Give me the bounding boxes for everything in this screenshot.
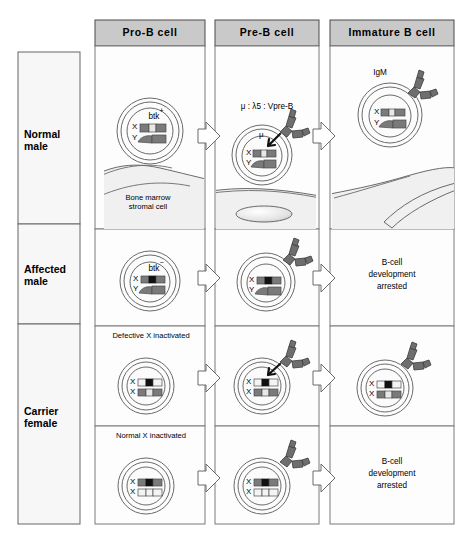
chromosome-label-x-active: X (130, 477, 135, 486)
row-label-column (18, 52, 80, 524)
chromosome-label-x-active: X (369, 389, 374, 398)
defective-x-inactivated-label: Defective X inactivated (99, 331, 203, 340)
chromosome-x-inactive (138, 379, 162, 386)
stromal-nucleus (236, 206, 292, 222)
chromosome-label-x-active: X (246, 477, 251, 486)
arrested-line1: B-cell (334, 456, 450, 468)
row-label-normal-male: Normal male (24, 128, 80, 152)
chromosome-label-x-inactive: X (130, 487, 135, 496)
arrested-line1: B-cell (334, 257, 450, 269)
btk-gene-text: btk (148, 264, 159, 273)
row-label-line2: female (24, 417, 80, 429)
chromosome-x-active (254, 389, 278, 396)
chromosome-label-x: X (246, 148, 251, 157)
chromosome-label-y: Y (133, 284, 138, 293)
chromosome-label-y: Y (249, 285, 254, 294)
row-label-line1: Affected (24, 263, 80, 275)
arrested-message-carrier-female: B-cell development arrested (334, 456, 450, 492)
chromosome-label-x-active: X (246, 387, 251, 396)
cell-pro-b-carrier-defective-x (118, 358, 174, 414)
chromosome-label-y: Y (246, 158, 251, 167)
chromosome-x-inactive (254, 379, 278, 386)
chromosome-x-active (138, 389, 162, 396)
figure-canvas: Pro-B cell Pre-B cell Immature B cell No… (0, 0, 464, 546)
chromosome-label-y: Y (132, 133, 137, 142)
cell-pro-b-carrier-normal-x (118, 458, 174, 514)
chromosome-label-x-inactive: X (130, 377, 135, 386)
row-label-line1: Carrier (24, 405, 80, 417)
chromosome-x-active (254, 479, 278, 486)
arrested-line2: development (334, 468, 450, 480)
arrested-line2: development (334, 269, 450, 281)
chromosome-label-y: Y (374, 118, 379, 127)
btk-negative-superscript: − (159, 259, 163, 266)
igm-label: IgM (362, 68, 398, 77)
btk-gene-text: btk (148, 112, 159, 121)
chromosome-label-x: X (133, 274, 138, 283)
chromosome-x-inactive (138, 489, 162, 496)
row-label-line2: male (24, 140, 80, 152)
chromosome-x (141, 276, 165, 283)
row-label-carrier-female: Carrier female (24, 405, 80, 429)
stromal-label-line2: stromal cell (100, 202, 196, 211)
chromosome-x-inactive (254, 489, 278, 496)
row-label-line2: male (24, 275, 80, 287)
btk-positive-label: btk+ (136, 105, 176, 123)
chromosome-x (381, 109, 405, 116)
chromosome-label-x: X (374, 107, 379, 116)
arrested-line3: arrested (334, 281, 450, 293)
chromosome-x (257, 277, 281, 284)
chromosome-label-x: X (132, 122, 137, 131)
chromosome-label-x: X (249, 275, 254, 284)
chromosome-label-x-inactive: X (246, 487, 251, 496)
chromosome-x-inactive (377, 381, 401, 388)
arrested-message-affected-male: B-cell development arrested (334, 257, 450, 293)
chromosome-label-x-active: X (130, 387, 135, 396)
column-header-label-pre-b: Pre-B cell (215, 26, 319, 38)
normal-x-inactivated-label: Normal X inactivated (99, 431, 203, 440)
btk-negative-label: btk− (136, 257, 176, 275)
chromosome-x (140, 124, 166, 132)
column-header-label-pro-b: Pro-B cell (95, 26, 205, 38)
row-label-affected-male: Affected male (24, 263, 80, 287)
column-header-label-immature-b: Immature B cell (330, 26, 454, 38)
stromal-label-line1: Bone marrow (100, 193, 196, 202)
chromosome-x-active (377, 391, 401, 398)
chromosome-label-x-inactive: X (369, 379, 374, 388)
chromosome-x (253, 150, 276, 157)
row-label-line1: Normal (24, 128, 80, 140)
btk-positive-superscript: + (159, 107, 163, 114)
chromosome-label-x-inactive: X (246, 377, 251, 386)
arrested-line3: arrested (334, 480, 450, 492)
pre-b-receptor-label: μ : λ5 : Vpre-B (219, 102, 315, 111)
stromal-cell-label: Bone marrow stromal cell (100, 193, 196, 212)
chromosome-x-active (138, 479, 162, 486)
mu-chain-label: μ (259, 130, 264, 139)
